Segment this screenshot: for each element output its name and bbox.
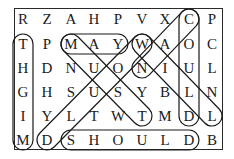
grid-cell[interactable]: P	[108, 9, 128, 29]
grid-cell[interactable]: S	[61, 130, 81, 150]
grid-cell[interactable]: Y	[132, 82, 152, 102]
grid-cell[interactable]: C	[202, 34, 222, 54]
grid-cell[interactable]: L	[155, 130, 175, 150]
grid-cell[interactable]: X	[155, 9, 175, 29]
grid-cell[interactable]: P	[37, 34, 57, 54]
grid-cell[interactable]: B	[202, 130, 222, 150]
grid-cell[interactable]: S	[61, 82, 81, 102]
grid-cell[interactable]: V	[132, 9, 152, 29]
grid-cell[interactable]: T	[84, 106, 104, 126]
grid-cell[interactable]: H	[84, 130, 104, 150]
grid-cell[interactable]: L	[202, 106, 222, 126]
grid-cell[interactable]: D	[37, 58, 57, 78]
grid-cell[interactable]: U	[179, 58, 199, 78]
grid-cell[interactable]: Y	[108, 34, 128, 54]
grid-cell[interactable]: Y	[37, 106, 57, 126]
puzzle-border	[14, 8, 223, 150]
grid-cell[interactable]: H	[37, 82, 57, 102]
grid-cell[interactable]: L	[179, 82, 199, 102]
grid-cell[interactable]: M	[61, 34, 81, 54]
grid-cell[interactable]: R	[13, 9, 33, 29]
grid-cell[interactable]: T	[132, 106, 152, 126]
grid-cell[interactable]: W	[108, 106, 128, 126]
grid-cell[interactable]: O	[108, 58, 128, 78]
grid-cell[interactable]: U	[84, 58, 104, 78]
grid-cell[interactable]: M	[155, 106, 175, 126]
grid-cell[interactable]: H	[13, 58, 33, 78]
grid-cell[interactable]: I	[155, 58, 175, 78]
grid-cell[interactable]: D	[37, 130, 57, 150]
grid-cell[interactable]: A	[155, 34, 175, 54]
grid-cell[interactable]: L	[202, 58, 222, 78]
grid-cell[interactable]: D	[179, 106, 199, 126]
grid-cell[interactable]: G	[13, 82, 33, 102]
grid-cell[interactable]: L	[61, 106, 81, 126]
grid-cell[interactable]: U	[84, 82, 104, 102]
grid-cell[interactable]: W	[132, 34, 152, 54]
grid-cell[interactable]: U	[132, 130, 152, 150]
grid-cell[interactable]: Z	[37, 9, 57, 29]
grid-cell[interactable]: A	[84, 34, 104, 54]
grid-cell[interactable]: N	[132, 58, 152, 78]
grid-cell[interactable]: C	[179, 9, 199, 29]
grid-cell[interactable]: N	[202, 82, 222, 102]
grid-cell[interactable]: B	[155, 82, 175, 102]
grid-cell[interactable]: O	[179, 34, 199, 54]
grid-cell[interactable]: I	[13, 106, 33, 126]
grid-cell[interactable]: N	[61, 58, 81, 78]
grid-cell[interactable]: T	[13, 34, 33, 54]
word-search-puzzle: RZAHPVXCPTPMAYWAOCHDNUONIULGHSUSYBLNIYLT…	[0, 0, 234, 159]
grid-cell[interactable]: O	[108, 130, 128, 150]
grid-cell[interactable]: S	[108, 82, 128, 102]
grid-cell[interactable]: A	[61, 9, 81, 29]
grid-cell[interactable]: P	[202, 9, 222, 29]
grid-cell[interactable]: M	[13, 130, 33, 150]
grid-cell[interactable]: D	[179, 130, 199, 150]
grid-cell[interactable]: H	[84, 9, 104, 29]
